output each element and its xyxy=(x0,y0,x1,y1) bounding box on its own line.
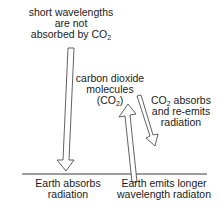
earth-absorbs-line2: radiation xyxy=(30,189,106,200)
earth-emission-arrow-icon xyxy=(119,104,137,182)
incoming-label: short wavelengths are not absorbed by CO… xyxy=(16,7,126,40)
reemit-label: CO2 absorbs and re-emits radiation xyxy=(146,95,216,128)
incoming-label-line3: absorbed by CO2 xyxy=(16,29,126,40)
molecules-label-line3: (CO2) xyxy=(72,95,148,106)
earth-emits-line2: wavelength radiaton xyxy=(112,189,216,200)
molecules-label: carbon dioxide molecules (CO2) xyxy=(72,73,148,106)
reemit-label-line3: radiation xyxy=(146,117,216,128)
earth-absorbs-label: Earth absorbs radiation xyxy=(30,178,106,200)
earth-emits-label: Earth emits longer wavelength radiaton xyxy=(112,178,216,200)
incoming-arrow-icon xyxy=(57,48,74,171)
